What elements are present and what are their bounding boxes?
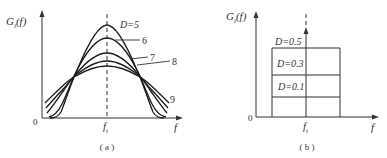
panel-b-label-d03: D=0.3 <box>276 58 303 69</box>
panel-a-caption: ( a ) <box>100 142 115 152</box>
panel-b-label-d01: D=0.1 <box>277 81 304 92</box>
panel-a-x-arrow-icon <box>176 116 183 121</box>
panel-b-label-d05: D=0.5 <box>274 36 301 47</box>
panel-b-x-label: f <box>371 121 376 133</box>
panel-b-x-arrow-icon <box>372 115 379 120</box>
panel-b: Gi(f) D=0.5 D=0.3 D=0.1 0 fi f ( b ) <box>226 10 379 152</box>
panel-a-label-8: 8 <box>172 56 177 67</box>
panel-a-label-6: 6 <box>142 35 147 46</box>
panel-b-caption: ( b ) <box>300 142 315 152</box>
panel-b-center-label: fi <box>303 120 308 135</box>
panel-a-label-d5: D=5 <box>119 19 139 30</box>
panel-b-center-arrow-icon <box>304 27 309 34</box>
panel-a-y-arrow-icon <box>40 10 45 17</box>
panel-a-leader-7 <box>130 57 148 59</box>
panel-b-y-arrow-icon <box>254 11 259 18</box>
panel-b-origin-label: 0 <box>248 113 253 123</box>
panel-a-y-label: Gi(f) <box>6 15 27 30</box>
figure: Gi(f) D=5 6 7 8 9 0 fi f ( a ) Gi(f) <box>0 0 387 158</box>
panel-a-x-label: f <box>174 121 179 133</box>
panel-a-label-7: 7 <box>150 52 155 63</box>
panel-a: Gi(f) D=5 6 7 8 9 0 fi f ( a ) <box>6 10 183 152</box>
panel-a-center-label: fi <box>103 120 108 135</box>
panel-a-label-9: 9 <box>170 94 175 105</box>
panel-a-origin-label: 0 <box>33 117 38 127</box>
panel-b-y-label: Gi(f) <box>226 10 247 25</box>
